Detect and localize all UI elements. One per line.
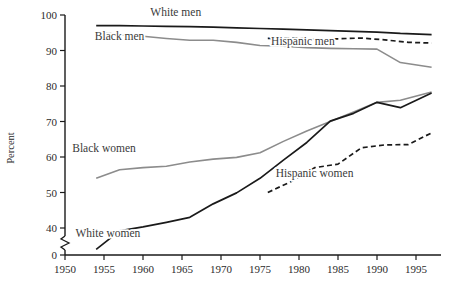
series-label-hispanic-men: Hispanic men — [271, 35, 335, 48]
y-axis-title: Percent — [5, 132, 16, 164]
x-tick-label: 1980 — [288, 263, 311, 275]
axes-group — [61, 15, 441, 255]
chart-container: 0405060708090100 19501955196019651970197… — [0, 0, 449, 287]
series-label-white-women: White women — [75, 227, 140, 239]
x-tick-label: 1955 — [93, 263, 116, 275]
series-label-black-men: Black men — [95, 30, 145, 42]
x-tick-label: 1985 — [327, 263, 350, 275]
x-tick-label: 1995 — [405, 263, 428, 275]
y-tick-label: 100 — [41, 9, 58, 21]
y-axis-ticks: 0405060708090100 — [41, 9, 66, 261]
x-tick-label: 1965 — [171, 263, 194, 275]
x-tick-label: 1975 — [249, 263, 272, 275]
series-label-white-men: White men — [150, 6, 201, 18]
x-tick-label: 1970 — [210, 263, 233, 275]
y-axis-title-text: Percent — [5, 132, 16, 164]
y-tick-label: 80 — [46, 80, 58, 92]
x-tick-label: 1950 — [54, 263, 77, 275]
y-tick-label: 50 — [46, 187, 58, 199]
series-label-hispanic-women: Hispanic women — [276, 167, 354, 180]
series-line-black-women — [96, 92, 431, 178]
series-line-white-men — [96, 26, 431, 35]
x-tick-label: 1960 — [132, 263, 155, 275]
series-line-black-men — [96, 32, 431, 67]
series-line-hispanic-women — [268, 133, 432, 193]
y-tick-label: 90 — [46, 45, 58, 57]
series-label-black-women: Black women — [72, 142, 136, 154]
x-tick-label: 1990 — [366, 263, 389, 275]
axis-break-icon — [61, 236, 69, 250]
series-lines — [96, 26, 431, 250]
y-tick-label: 70 — [46, 116, 58, 128]
y-tick-label: 0 — [52, 249, 58, 261]
x-axis-ticks: 1950195519601965197019751980198519901995 — [54, 255, 428, 275]
line-chart: 0405060708090100 19501955196019651970197… — [0, 0, 449, 287]
series-line-white-women — [96, 93, 431, 249]
y-tick-label: 40 — [46, 222, 58, 234]
y-tick-label: 60 — [46, 151, 58, 163]
